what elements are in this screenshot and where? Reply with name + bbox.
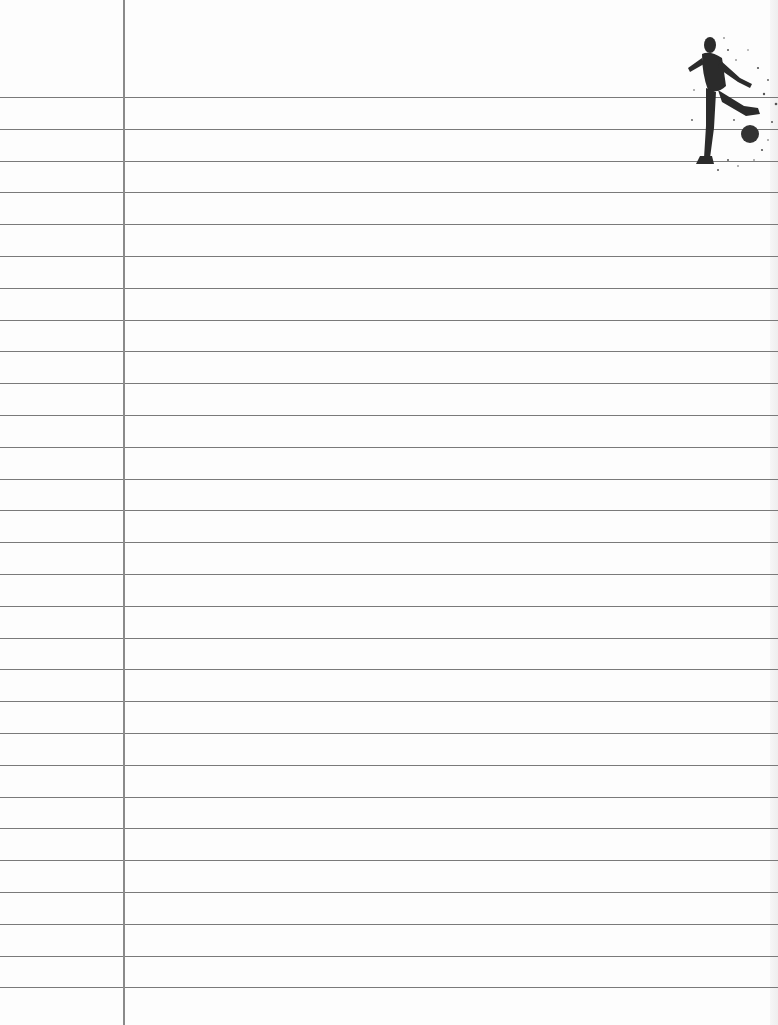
ruled-line	[0, 797, 778, 798]
ruled-line	[0, 924, 778, 925]
ruled-line	[0, 351, 778, 352]
ruled-line	[0, 192, 778, 193]
ruled-line	[0, 574, 778, 575]
ruled-line	[0, 510, 778, 511]
ruled-line	[0, 638, 778, 639]
ruled-line	[0, 860, 778, 861]
ruled-line	[0, 956, 778, 957]
ruled-line	[0, 733, 778, 734]
ruled-line	[0, 669, 778, 670]
ruled-line	[0, 224, 778, 225]
ruled-line	[0, 701, 778, 702]
ruled-line	[0, 542, 778, 543]
ruled-line	[0, 161, 778, 162]
ruled-line	[0, 987, 778, 988]
ruled-line	[0, 97, 778, 98]
lined-paper-page	[0, 0, 778, 1025]
soccer-player-kicking-ball-icon	[688, 30, 778, 175]
ruled-line	[0, 606, 778, 607]
ruled-line	[0, 256, 778, 257]
ruled-line	[0, 415, 778, 416]
ruled-line	[0, 892, 778, 893]
ruled-line	[0, 129, 778, 130]
ruled-line	[0, 765, 778, 766]
ruled-line	[0, 447, 778, 448]
ruled-line	[0, 828, 778, 829]
ruled-line	[0, 479, 778, 480]
ruled-line	[0, 383, 778, 384]
ruled-line	[0, 320, 778, 321]
margin-line	[123, 0, 125, 1025]
ruled-line	[0, 288, 778, 289]
